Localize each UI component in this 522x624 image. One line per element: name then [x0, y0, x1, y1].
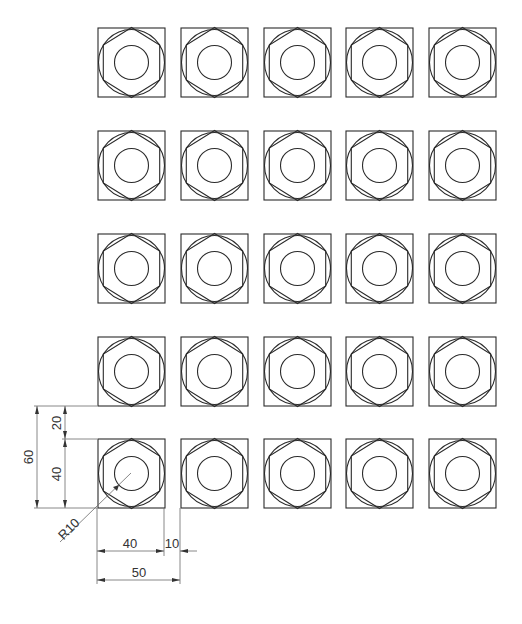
nut-symbol — [429, 28, 496, 98]
square-outline — [429, 234, 496, 303]
hole-circle — [446, 355, 480, 389]
hole-circle — [115, 457, 149, 491]
nut-symbol — [346, 439, 413, 509]
nut-symbol — [181, 234, 248, 304]
nut-symbol — [429, 439, 496, 509]
hexagon-outline — [351, 337, 407, 407]
square-outline — [264, 439, 331, 508]
nut-symbol — [98, 234, 165, 304]
square-outline — [429, 131, 496, 200]
hole-circle — [198, 355, 232, 389]
hole-circle — [363, 355, 397, 389]
hole-circle — [363, 457, 397, 491]
drawing-canvas: 60 20 40 40 10 50 R10 — [0, 0, 522, 624]
arrow-head-icon — [180, 549, 188, 553]
nut-symbol — [346, 28, 413, 98]
outer-circle — [99, 133, 165, 199]
dim-label-10: 10 — [165, 536, 179, 551]
dim-label-50: 50 — [132, 565, 146, 580]
outer-circle — [265, 339, 331, 405]
square-outline — [429, 28, 496, 97]
outer-circle — [99, 30, 165, 96]
hexagon-outline — [186, 337, 242, 407]
square-outline — [181, 28, 248, 97]
outer-circle — [347, 30, 413, 96]
square-outline — [98, 337, 165, 406]
square-outline — [346, 439, 413, 508]
nut-symbol — [181, 337, 248, 407]
nut-symbol — [264, 131, 331, 201]
nut-symbol — [181, 131, 248, 201]
nut-symbol — [264, 28, 331, 98]
nut-symbol — [429, 337, 496, 407]
hexagon-outline — [103, 28, 159, 98]
nut-symbol — [181, 439, 248, 509]
nut-symbol — [98, 131, 165, 201]
hole-circle — [363, 46, 397, 80]
nut-symbol — [98, 337, 165, 407]
hexagon-outline — [269, 234, 325, 304]
outer-circle — [430, 339, 496, 405]
hexagon-outline — [351, 439, 407, 509]
hexagon-outline — [186, 234, 242, 304]
square-outline — [264, 131, 331, 200]
arrow-head-icon — [35, 406, 39, 414]
square-outline — [346, 28, 413, 97]
outer-circle — [265, 441, 331, 507]
hole-circle — [281, 355, 315, 389]
outer-circle — [430, 236, 496, 302]
outer-circle — [347, 133, 413, 199]
nut-symbol — [429, 131, 496, 201]
arrow-head-icon — [63, 439, 67, 447]
outer-circle — [265, 30, 331, 96]
outer-circle — [182, 441, 248, 507]
nut-symbol — [264, 337, 331, 407]
square-outline — [98, 28, 165, 97]
outer-circle — [430, 30, 496, 96]
hole-circle — [446, 46, 480, 80]
arrow-head-icon — [156, 549, 164, 553]
hexagon-outline — [103, 439, 159, 509]
hexagon-outline — [103, 131, 159, 201]
hole-circle — [115, 355, 149, 389]
hole-circle — [115, 46, 149, 80]
hexagon-outline — [269, 337, 325, 407]
outer-circle — [182, 30, 248, 96]
nut-symbol — [264, 439, 331, 509]
hole-circle — [281, 46, 315, 80]
square-outline — [346, 131, 413, 200]
arrow-head-icon — [63, 500, 67, 508]
arrow-head-icon — [63, 431, 67, 439]
outer-circle — [99, 236, 165, 302]
outer-circle — [265, 133, 331, 199]
hole-circle — [446, 149, 480, 183]
dim-label-40-vertical: 40 — [49, 467, 64, 481]
outer-circle — [265, 236, 331, 302]
nut-symbol — [181, 28, 248, 98]
hole-circle — [115, 252, 149, 286]
square-outline — [264, 28, 331, 97]
nut-symbol — [98, 439, 165, 509]
dim-label-60: 60 — [21, 450, 36, 464]
hexagon-outline — [351, 131, 407, 201]
hexagon-outline — [434, 234, 490, 304]
nut-symbol — [264, 234, 331, 304]
hole-circle — [446, 252, 480, 286]
hole-circle — [363, 252, 397, 286]
hexagon-outline — [269, 28, 325, 98]
outer-circle — [182, 133, 248, 199]
square-outline — [98, 131, 165, 200]
hole-circle — [115, 149, 149, 183]
nut-symbol — [346, 337, 413, 407]
hexagon-outline — [186, 131, 242, 201]
dim-label-40-horizontal: 40 — [123, 536, 137, 551]
nut-grid — [98, 28, 496, 509]
hexagon-outline — [269, 439, 325, 509]
hexagon-outline — [269, 131, 325, 201]
arrow-head-icon — [63, 406, 67, 414]
arrow-head-icon — [35, 500, 39, 508]
hexagon-outline — [434, 28, 490, 98]
hexagon-outline — [186, 439, 242, 509]
dim-label-r10: R10 — [55, 515, 82, 542]
outer-circle — [430, 133, 496, 199]
